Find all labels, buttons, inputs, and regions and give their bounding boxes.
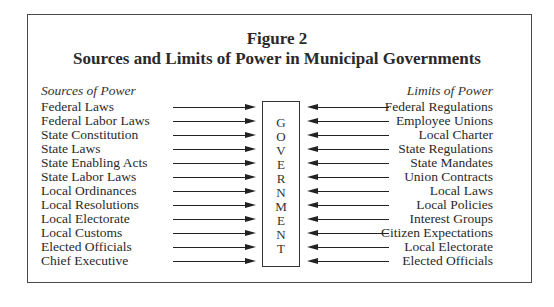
government-letter: E — [263, 158, 299, 172]
source-item: Local Resolutions — [41, 198, 150, 212]
limit-item: Union Contracts — [381, 170, 493, 184]
source-item: Federal Laws — [41, 100, 150, 114]
limit-item: Elected Officials — [381, 254, 493, 268]
limit-item: Local Charter — [381, 128, 493, 142]
limit-arrows — [307, 100, 389, 268]
arrow-left-icon — [307, 240, 389, 254]
source-item: State Constitution — [41, 128, 150, 142]
arrow-left-icon — [307, 128, 389, 142]
limit-item: Local Laws — [381, 184, 493, 198]
limit-item: Local Electorate — [381, 240, 493, 254]
source-item: Chief Executive — [41, 254, 150, 268]
limit-item: Citizen Expectations — [381, 226, 493, 240]
arrow-right-icon — [173, 240, 256, 254]
arrow-right-icon — [173, 170, 256, 184]
government-label: G O V E R N M E N T — [263, 116, 299, 256]
limit-item: State Regulations — [381, 142, 493, 156]
arrow-right-icon — [173, 198, 256, 212]
limits-header: Limits of Power — [407, 83, 493, 99]
arrow-right-icon — [173, 100, 256, 114]
limit-item: Local Policies — [381, 198, 493, 212]
limit-item: Federal Regulations — [381, 100, 493, 114]
limit-item: Interest Groups — [381, 212, 493, 226]
government-letter: O — [263, 130, 299, 144]
source-item: Federal Labor Laws — [41, 114, 150, 128]
arrow-right-icon — [173, 254, 256, 268]
government-letter: V — [263, 144, 299, 158]
arrow-right-icon — [173, 184, 256, 198]
sources-list: Federal Laws Federal Labor Laws State Co… — [41, 100, 150, 268]
government-letter: R — [263, 172, 299, 186]
arrow-left-icon — [307, 156, 389, 170]
arrow-left-icon — [307, 170, 389, 184]
government-letter: T — [263, 242, 299, 256]
government-box: G O V E R N M E N T — [262, 101, 300, 267]
source-item: State Laws — [41, 142, 150, 156]
arrow-left-icon — [307, 114, 389, 128]
limit-item: State Mandates — [381, 156, 493, 170]
arrow-left-icon — [307, 142, 389, 156]
arrow-left-icon — [307, 212, 389, 226]
arrow-left-icon — [307, 100, 389, 114]
source-item: Local Customs — [41, 226, 150, 240]
source-item: Elected Officials — [41, 240, 150, 254]
figure-title: Sources and Limits of Power in Municipal… — [0, 49, 554, 69]
sources-header: Sources of Power — [41, 83, 136, 99]
figure-label: Figure 2 — [0, 29, 554, 49]
arrow-right-icon — [173, 156, 256, 170]
source-item: Local Electorate — [41, 212, 150, 226]
arrow-right-icon — [173, 226, 256, 240]
source-item: State Enabling Acts — [41, 156, 150, 170]
arrow-right-icon — [173, 142, 256, 156]
limits-list: Federal Regulations Employee Unions Loca… — [381, 100, 493, 268]
arrow-right-icon — [173, 128, 256, 142]
government-letter: N — [263, 186, 299, 200]
government-letter: N — [263, 228, 299, 242]
arrow-right-icon — [173, 212, 256, 226]
government-letter: G — [263, 116, 299, 130]
arrow-left-icon — [307, 226, 389, 240]
arrow-right-icon — [173, 114, 256, 128]
government-letter: M — [263, 200, 299, 214]
source-arrows — [173, 100, 256, 268]
limit-item: Employee Unions — [381, 114, 493, 128]
arrow-left-icon — [307, 254, 389, 268]
source-item: Local Ordinances — [41, 184, 150, 198]
arrow-left-icon — [307, 184, 389, 198]
arrow-left-icon — [307, 198, 389, 212]
government-letter: E — [263, 214, 299, 228]
source-item: State Labor Laws — [41, 170, 150, 184]
